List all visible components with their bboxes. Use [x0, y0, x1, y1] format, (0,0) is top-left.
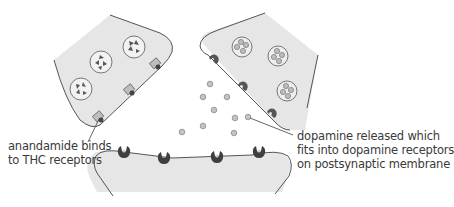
- anandamide-vesicle: [70, 78, 92, 100]
- dopamine-molecules: [179, 81, 251, 136]
- dopamine-receptor: [253, 146, 265, 158]
- dopamine-receptor: [158, 152, 170, 164]
- anandamide-vesicle: [123, 36, 145, 58]
- dopamine-vesicle: [232, 37, 252, 57]
- dopamine-vesicle: [277, 81, 297, 101]
- dopamine-label-line1: dopamine released which: [297, 129, 454, 143]
- dopamine-label-line3: on postsynaptic membrane: [297, 157, 454, 171]
- anandamide-label: anandamide binds to THC receptors: [8, 139, 111, 167]
- dopamine-label: dopamine released which fits into dopami…: [297, 129, 454, 171]
- dopamine-receptor: [211, 151, 223, 163]
- anandamide-label-line2: to THC receptors: [8, 153, 111, 167]
- left-neuron: [54, 15, 173, 127]
- dopamine-receptor: [118, 146, 130, 158]
- anandamide-label-line1: anandamide binds: [8, 139, 111, 153]
- right-neuron: [200, 13, 318, 130]
- dopamine-vesicle: [268, 46, 288, 66]
- dopamine-label-line2: fits into dopamine receptors: [297, 143, 454, 157]
- anandamide-vesicle: [90, 51, 112, 73]
